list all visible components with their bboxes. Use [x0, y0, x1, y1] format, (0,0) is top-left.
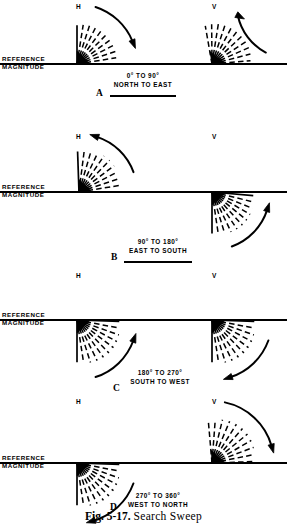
panel-angle-range: 180° TO 270°	[100, 369, 220, 376]
reference-label-line2: MAGNITUDE	[2, 319, 45, 327]
axis-marker-v: V	[212, 3, 217, 10]
axis-marker-v: V	[212, 272, 217, 279]
figure-caption-prefix: Fig. 5-17.	[85, 510, 131, 522]
panel-caption-c: 180° TO 270°SOUTH TO WEST	[100, 369, 220, 385]
sweep-arrow-arc	[225, 402, 272, 446]
axis-marker-h: H	[76, 398, 81, 405]
reference-magnitude-label: REFERENCEMAGNITUDE	[2, 183, 45, 198]
axis-marker-h: H	[76, 272, 81, 279]
reference-magnitude-label: REFERENCEMAGNITUDE	[2, 55, 45, 70]
sweep-arrow-head	[129, 39, 135, 49]
reference-label-line1: REFERENCE	[2, 183, 45, 191]
panel-caption-underline	[124, 261, 192, 263]
panel-letter-a: A	[96, 88, 103, 98]
sweep-arrow-head	[235, 12, 245, 19]
sweep-arrow-head	[223, 374, 233, 380]
figure-caption-title: Search Sweep	[134, 510, 202, 522]
ray-fan-b-v	[212, 192, 270, 247]
sweep-arrow-head	[130, 333, 136, 343]
reference-label-line2: MAGNITUDE	[2, 191, 45, 199]
figure-search-sweep: HVREFERENCEMAGNITUDEA0° TO 90°NORTH TO E…	[0, 0, 287, 529]
ray-fan-a-h	[77, 7, 135, 64]
sweep-arrow-head	[268, 443, 274, 453]
panel-angle-range: 270° TO 360°	[98, 492, 218, 499]
panel-angle-range: 0° TO 90°	[83, 72, 203, 79]
ray-fan-a-v	[205, 12, 266, 64]
sweep-ray	[78, 152, 79, 192]
sweep-arrow-arc	[96, 7, 133, 42]
panel-caption-d: 270° TO 360°WEST TO NORTH	[98, 492, 218, 508]
sweep-arrow-head	[90, 134, 100, 140]
ray-fan-d-v	[208, 402, 274, 463]
axis-marker-v: V	[212, 133, 217, 140]
axis-marker-v: V	[212, 398, 217, 405]
panel-letter-b: B	[111, 252, 117, 262]
figure-caption: Fig. 5-17. Search Sweep	[0, 510, 287, 522]
ray-fan-c-v	[212, 320, 268, 380]
sweep-arrow-arc	[97, 137, 134, 172]
panel-letter-c: C	[113, 383, 120, 393]
reference-label-line1: REFERENCE	[2, 311, 45, 319]
ray-fan-b-h	[78, 134, 134, 192]
reference-label-line2: MAGNITUDE	[2, 63, 45, 71]
reference-label-line1: REFERENCE	[2, 454, 45, 462]
panel-caption-a: 0° TO 90°NORTH TO EAST	[83, 72, 203, 88]
sweep-arrow-arc	[238, 15, 266, 52]
axis-marker-h: H	[76, 133, 81, 140]
panel-direction-range: WEST TO NORTH	[98, 501, 218, 508]
axis-marker-h: H	[76, 3, 81, 10]
panel-caption-b: 90° TO 180°EAST TO SOUTH	[98, 238, 218, 254]
reference-label-line2: MAGNITUDE	[2, 462, 45, 470]
reference-label-line1: REFERENCE	[2, 55, 45, 63]
panel-direction-range: NORTH TO EAST	[83, 81, 203, 88]
panel-direction-range: SOUTH TO WEST	[100, 378, 220, 385]
reference-magnitude-label: REFERENCEMAGNITUDE	[2, 454, 45, 469]
reference-magnitude-label: REFERENCEMAGNITUDE	[2, 311, 45, 326]
panel-caption-underline	[110, 95, 176, 97]
sweep-arrow-head	[264, 203, 270, 213]
panel-direction-range: EAST TO SOUTH	[98, 247, 218, 254]
panel-angle-range: 90° TO 180°	[98, 238, 218, 245]
